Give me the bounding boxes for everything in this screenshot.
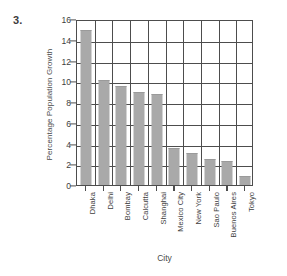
x-axis-tick-label: Shanghai	[159, 192, 168, 225]
x-axis-tick-label: Sao Paulo	[212, 192, 221, 228]
bar	[187, 153, 198, 185]
bar	[169, 148, 180, 185]
x-axis-tick-mark	[226, 186, 227, 191]
bar-slot	[236, 21, 254, 185]
x-axis-tick-label: Mexico City	[176, 192, 185, 232]
bar-slot	[183, 21, 201, 185]
x-axis-tick-label: Bombay	[123, 192, 132, 220]
y-axis-tick-label: 6	[49, 119, 71, 129]
x-axis-tick-label: Delhi	[106, 192, 115, 210]
x-axis-tick-mark	[244, 186, 245, 191]
x-axis-tick-mark	[138, 186, 139, 191]
bar	[133, 92, 144, 185]
y-axis-tick-label: 4	[49, 140, 71, 150]
y-axis-tick-label: 16	[49, 15, 71, 25]
bar-slot	[77, 21, 95, 185]
plot-area	[76, 20, 253, 186]
bar-series	[77, 21, 252, 185]
bar	[204, 159, 215, 185]
x-axis-tick-mark	[173, 186, 174, 191]
bar-slot	[130, 21, 148, 185]
x-axis-tick-label: Calcutta	[141, 192, 150, 220]
x-axis-tick-mark	[85, 186, 86, 191]
bar-slot	[166, 21, 184, 185]
y-axis-tick-label: 8	[49, 98, 71, 108]
bar-slot	[201, 21, 219, 185]
x-axis-tick-label: Dhaka	[88, 192, 97, 214]
y-axis-tick-label: 10	[49, 77, 71, 87]
bar-slot	[95, 21, 113, 185]
y-axis-tick-label: 14	[49, 36, 71, 46]
x-axis-tick-mark	[191, 186, 192, 191]
bar-slot	[219, 21, 237, 185]
x-axis-tick-label: New York	[194, 192, 203, 225]
x-axis-tick-mark	[120, 186, 121, 191]
bar	[116, 86, 127, 185]
x-axis-tick-mark	[156, 186, 157, 191]
bar	[151, 94, 162, 185]
x-axis-tick-mark	[103, 186, 104, 191]
x-axis-tick-label: Buenos Aires	[229, 192, 238, 237]
bar	[80, 30, 91, 185]
bar-slot	[148, 21, 166, 185]
bar	[98, 80, 109, 185]
y-axis-tick-label: 0	[49, 181, 71, 191]
x-axis-tick-label: Tokyo	[247, 192, 256, 212]
problem-number: 3.	[13, 14, 23, 26]
bar	[222, 161, 233, 185]
bar	[240, 176, 251, 185]
bar-slot	[112, 21, 130, 185]
x-axis-tick-mark	[209, 186, 210, 191]
y-axis-tick-label: 12	[49, 57, 71, 67]
x-axis-title: City	[76, 253, 253, 263]
y-axis-tick-label: 2	[49, 160, 71, 170]
